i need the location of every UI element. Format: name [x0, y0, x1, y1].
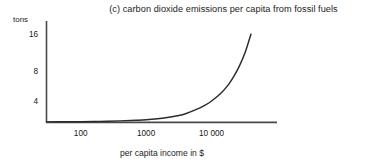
chart-figure: (c) carbon dioxide emissions per capita … — [0, 0, 369, 168]
plot-area — [0, 0, 369, 168]
data-series-line — [47, 34, 251, 122]
